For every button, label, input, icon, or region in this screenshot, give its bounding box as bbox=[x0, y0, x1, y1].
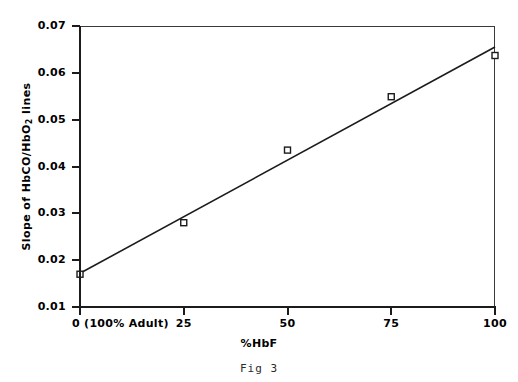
data-point-marker bbox=[285, 147, 291, 153]
data-point-marker bbox=[492, 53, 498, 59]
y-axis-tick bbox=[72, 72, 80, 74]
regression-line bbox=[80, 47, 495, 273]
y-axis-tick bbox=[72, 119, 80, 121]
figure-panel: 0.010.020.030.040.050.060.07 0 (100% Adu… bbox=[0, 0, 518, 382]
y-axis-tick bbox=[72, 25, 80, 27]
y-axis-tick bbox=[72, 166, 80, 168]
data-point-marker bbox=[181, 220, 187, 226]
x-axis-tick-label: 50 bbox=[258, 317, 318, 330]
y-axis-tick bbox=[72, 212, 80, 214]
x-axis-tick-label: 75 bbox=[361, 317, 421, 330]
x-axis-tick bbox=[494, 307, 496, 315]
x-axis-title: %HbF bbox=[0, 337, 518, 350]
x-axis-tick bbox=[390, 307, 392, 315]
data-layer bbox=[80, 26, 495, 307]
x-axis-tick bbox=[287, 307, 289, 315]
y-axis-title: Slope of HbCO/HbO2 lines bbox=[20, 26, 38, 307]
x-axis-tick-label: 25 bbox=[154, 317, 214, 330]
plot-area bbox=[80, 26, 495, 307]
x-axis-tick-label: 100 bbox=[465, 317, 518, 330]
data-point-markers bbox=[77, 53, 498, 278]
x-axis-tick bbox=[79, 307, 81, 315]
x-axis-tick bbox=[183, 307, 185, 315]
figure-caption: Fig 3 bbox=[0, 362, 518, 375]
y-axis-tick bbox=[72, 259, 80, 261]
data-point-marker bbox=[388, 94, 394, 100]
